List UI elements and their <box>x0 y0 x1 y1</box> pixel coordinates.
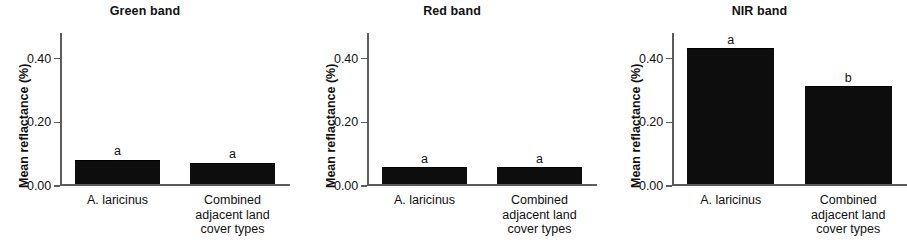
y-tick-label: 0.00 <box>334 179 358 193</box>
panel-green-band: Green bandMean reflactance (%)A. laricin… <box>0 0 307 250</box>
plot-area: 0.000.200.40aa <box>60 33 290 186</box>
y-tick-label: 0.20 <box>27 115 51 129</box>
x-tick-label-line: Combined <box>175 193 290 208</box>
y-tick-label: 0.00 <box>639 179 663 193</box>
y-tick <box>54 122 60 124</box>
x-tick-label-line: A. laricinus <box>672 193 790 208</box>
x-tick-label-line: adjacent land <box>175 208 290 223</box>
y-axis-line <box>367 33 369 186</box>
plot-area: 0.000.200.40ab <box>672 33 907 186</box>
x-tick-label-line: A. laricinus <box>367 193 482 208</box>
x-tick-label: A. laricinus <box>367 193 482 208</box>
panel-title: Red band <box>307 4 597 18</box>
significance-letter: a <box>687 33 774 47</box>
x-tick-label-line: adjacent land <box>482 208 597 223</box>
x-tick-label: A. laricinus <box>672 193 790 208</box>
y-tick-label: 0.20 <box>639 115 663 129</box>
significance-letter: a <box>190 147 275 161</box>
x-tick-label-line: Combined <box>790 193 907 208</box>
y-tick-label: 0.00 <box>27 179 51 193</box>
x-tick-label: Combinedadjacent landcover types <box>790 193 907 237</box>
significance-letter: a <box>382 152 467 166</box>
y-tick <box>361 58 367 60</box>
bar <box>805 86 892 184</box>
y-axis-line <box>672 33 674 186</box>
x-tick-label-line: cover types <box>482 222 597 237</box>
y-tick-label: 0.40 <box>27 52 51 66</box>
bar <box>382 167 467 184</box>
figure-multipanel-bar-chart: Green bandMean reflactance (%)A. laricin… <box>0 0 907 250</box>
panel-nir-band: NIR bandMean reflactance (%)A. laricinus… <box>614 0 907 250</box>
y-tick-label: 0.20 <box>334 115 358 129</box>
significance-letter: b <box>805 71 892 85</box>
y-tick <box>666 122 672 124</box>
y-tick <box>666 185 672 187</box>
y-tick-label: 0.40 <box>334 52 358 66</box>
x-tick-label: Combinedadjacent landcover types <box>175 193 290 237</box>
significance-letter: a <box>75 144 160 158</box>
y-tick <box>361 185 367 187</box>
bar <box>75 160 160 185</box>
x-tick-label-line: cover types <box>790 222 907 237</box>
x-tick-label-line: Combined <box>482 193 597 208</box>
panel-title: NIR band <box>612 4 907 18</box>
bar <box>687 48 774 184</box>
y-tick <box>361 122 367 124</box>
y-tick <box>54 185 60 187</box>
x-tick-label-line: A. laricinus <box>60 193 175 208</box>
x-tick-label-line: cover types <box>175 222 290 237</box>
panel-red-band: Red bandMean reflactance (%)A. laricinus… <box>307 0 614 250</box>
x-axis-line <box>367 184 597 186</box>
bar <box>497 167 582 184</box>
y-tick-label: 0.40 <box>639 52 663 66</box>
y-tick <box>54 58 60 60</box>
panel-title: Green band <box>0 4 290 18</box>
x-tick-label: A. laricinus <box>60 193 175 208</box>
significance-letter: a <box>497 152 582 166</box>
bar <box>190 163 275 185</box>
y-tick <box>666 58 672 60</box>
x-axis-line <box>672 184 907 186</box>
x-tick-label-line: adjacent land <box>790 208 907 223</box>
y-axis-line <box>60 33 62 186</box>
x-axis-line <box>60 184 290 186</box>
x-tick-label: Combinedadjacent landcover types <box>482 193 597 237</box>
plot-area: 0.000.200.40aa <box>367 33 597 186</box>
